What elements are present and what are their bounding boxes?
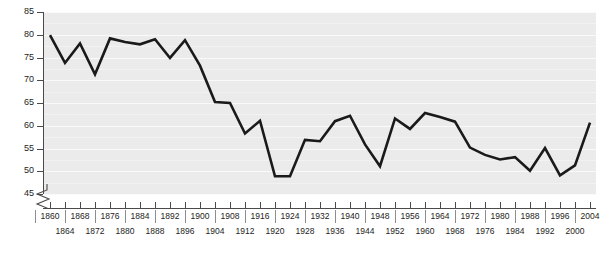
x-axis-label: 1960 — [408, 226, 442, 236]
x-axis-label: 1884 — [123, 211, 157, 221]
x-axis-tick — [380, 202, 381, 208]
x-axis-label: 1980 — [483, 211, 517, 221]
y-axis-label: 55 — [8, 143, 34, 153]
x-axis-label: 1872 — [78, 226, 112, 236]
x-axis-label: 1996 — [543, 211, 577, 221]
x-axis-label: 1892 — [153, 211, 187, 221]
data-line-svg — [44, 12, 596, 194]
x-axis-tick — [125, 202, 126, 208]
y-axis-label: 45 — [8, 188, 34, 198]
x-axis-tick — [170, 202, 171, 208]
x-axis-label: 1928 — [288, 226, 322, 236]
x-axis-tick — [110, 202, 111, 208]
x-axis-label: 1888 — [138, 226, 172, 236]
x-axis-tick — [65, 202, 66, 208]
x-axis-label: 1896 — [168, 226, 202, 236]
x-axis-tick — [440, 202, 441, 208]
x-axis-label: 1984 — [498, 226, 532, 236]
x-axis-label: 1944 — [348, 226, 382, 236]
x-axis-tick — [470, 202, 471, 208]
axis-break-icon — [33, 183, 55, 209]
x-axis-tick — [560, 202, 561, 208]
x-axis-tick — [425, 202, 426, 208]
y-axis-tick — [37, 126, 43, 127]
x-axis-label: 1864 — [48, 226, 82, 236]
x-axis-tick — [95, 202, 96, 208]
x-axis-label: 1916 — [243, 211, 277, 221]
y-axis-tick — [37, 103, 43, 104]
y-axis-tick — [37, 58, 43, 59]
y-axis-label: 70 — [8, 74, 34, 84]
x-axis-tick — [455, 202, 456, 208]
x-axis-label: 1904 — [198, 226, 232, 236]
y-axis-label: 50 — [8, 165, 34, 175]
x-axis-tick — [80, 202, 81, 208]
x-axis-label: 1932 — [303, 211, 337, 221]
x-axis-tick — [305, 202, 306, 208]
x-axis-label: 2004 — [573, 211, 607, 221]
x-axis-label: 1992 — [528, 226, 562, 236]
x-axis-label: 1956 — [393, 211, 427, 221]
y-axis-tick — [37, 171, 43, 172]
plot-area — [44, 12, 596, 194]
x-axis-label: 1964 — [423, 211, 457, 221]
x-axis-tick — [185, 202, 186, 208]
x-axis-label: 1952 — [378, 226, 412, 236]
y-axis-label: 80 — [8, 29, 34, 39]
x-axis-tick — [545, 202, 546, 208]
x-axis-label: 1936 — [318, 226, 352, 236]
x-label-separator — [35, 210, 36, 223]
x-axis-tick — [140, 202, 141, 208]
x-axis-label: 1972 — [453, 211, 487, 221]
x-axis-label: 1968 — [438, 226, 472, 236]
y-axis-label: 60 — [8, 120, 34, 130]
y-axis-line — [43, 12, 44, 194]
x-axis-tick — [530, 202, 531, 208]
x-axis-tick — [320, 202, 321, 208]
x-axis-label: 1876 — [93, 211, 127, 221]
x-axis-label: 1912 — [228, 226, 262, 236]
x-axis-tick — [335, 202, 336, 208]
x-axis-label: 1940 — [333, 211, 367, 221]
x-axis-tick — [485, 202, 486, 208]
y-axis-tick — [37, 149, 43, 150]
x-axis-tick — [590, 202, 591, 208]
x-axis-tick — [515, 202, 516, 208]
x-axis-label: 1880 — [108, 226, 142, 236]
x-axis-tick — [200, 202, 201, 208]
x-axis-label: 1976 — [468, 226, 502, 236]
x-axis-tick — [410, 202, 411, 208]
y-axis-label: 85 — [8, 6, 34, 16]
x-axis-tick — [230, 202, 231, 208]
x-axis-tick — [395, 202, 396, 208]
x-axis-tick — [260, 202, 261, 208]
x-axis-tick — [575, 202, 576, 208]
x-axis-tick — [350, 202, 351, 208]
x-axis-label: 1988 — [513, 211, 547, 221]
x-axis-label: 1868 — [63, 211, 97, 221]
y-axis-tick — [37, 35, 43, 36]
x-axis-tick — [275, 202, 276, 208]
x-axis-tick — [215, 202, 216, 208]
y-axis-label: 75 — [8, 52, 34, 62]
x-axis-tick — [245, 202, 246, 208]
x-axis-label: 1908 — [213, 211, 247, 221]
x-axis-label: 1860 — [33, 211, 67, 221]
data-series-line — [50, 35, 590, 176]
x-axis-tick — [50, 202, 51, 208]
gridline — [44, 194, 596, 195]
y-axis-tick — [37, 12, 43, 13]
x-axis-tick — [500, 202, 501, 208]
x-axis-label: 1924 — [273, 211, 307, 221]
x-axis-tick — [155, 202, 156, 208]
x-axis-tick — [290, 202, 291, 208]
voter-turnout-chart: Percentage of voters participating 45505… — [0, 0, 608, 256]
x-axis-label: 1948 — [363, 211, 397, 221]
x-axis-line — [43, 208, 596, 209]
x-axis-label: 2000 — [558, 226, 592, 236]
x-axis-tick — [365, 202, 366, 208]
x-axis-label: 1900 — [183, 211, 217, 221]
y-axis-tick — [37, 80, 43, 81]
y-axis-label: 65 — [8, 97, 34, 107]
x-axis-label: 1920 — [258, 226, 292, 236]
